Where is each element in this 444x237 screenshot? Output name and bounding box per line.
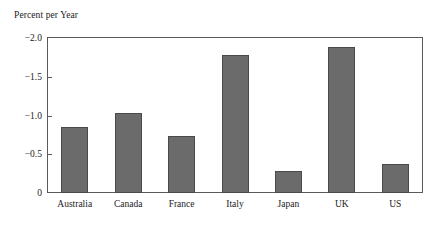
x-tick-label-us: US (355, 198, 435, 210)
bar-chart: Percent per Year −2.0−1.5−1.0−0.50 Austr… (0, 0, 444, 237)
x-axis-tick-labels: AustraliaCanadaFranceItalyJapanUKUS (0, 0, 444, 237)
